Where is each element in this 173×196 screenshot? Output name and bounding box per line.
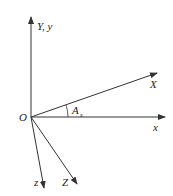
angle-subscript: s (80, 111, 83, 119)
origin-label: O (19, 111, 27, 123)
X-axis-line (31, 73, 157, 117)
angle-arc (66, 105, 68, 117)
z-axis-label: z (33, 176, 39, 188)
x-axis-label: x (152, 121, 158, 133)
coordinate-diagram: O Y, y x X z Z A s (0, 0, 173, 196)
Y-y-axis-label: Y, y (37, 20, 53, 32)
Z-axis-label: Z (62, 176, 69, 188)
X-axis-label: X (149, 78, 158, 90)
angle-label: A (71, 104, 79, 116)
Z-axis-line (31, 117, 77, 184)
